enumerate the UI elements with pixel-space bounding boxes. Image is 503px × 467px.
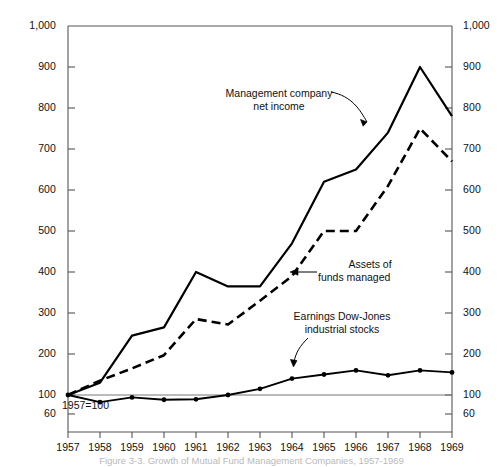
y-tick-label-right-700: 700 (463, 142, 481, 154)
y-tick-label-right-60: 60 (463, 407, 475, 419)
series-2-point-1969 (450, 370, 455, 375)
y-tick-label-right-100: 100 (463, 388, 481, 400)
y-tick-label-left-300: 300 (0, 306, 56, 318)
y-tick-label-right-900: 900 (463, 60, 481, 72)
y-tick-label-right-200: 200 (463, 347, 481, 359)
series-2-point-1965 (322, 372, 327, 377)
figure-container: 1,00090080070060050040030020010060 1,000… (0, 0, 503, 467)
y-tick-label-right-1000: 1,000 (463, 19, 490, 31)
chart-plot-area (0, 0, 503, 467)
series-2-point-1964 (290, 376, 295, 381)
series-2-point-1961 (194, 397, 199, 402)
data-series-layer (66, 67, 455, 405)
figure-caption: Figure 3-3. Growth of Mutual Fund Manage… (0, 455, 503, 467)
series-2-point-1957 (66, 393, 71, 398)
series-2-point-1962 (226, 393, 231, 398)
y-tick-label-left-60: 60 (0, 407, 56, 419)
x-tick-label-1969: 1969 (432, 441, 472, 453)
annotation-earnings-dow-jones: Earnings Dow-Jones industrial stocks (283, 310, 401, 336)
x-axis-ticks (68, 432, 452, 438)
y-tick-label-left-800: 800 (0, 101, 56, 113)
annotation-line-2: net income (204, 100, 354, 113)
y-tick-label-left-900: 900 (0, 60, 56, 72)
y-tick-label-left-100: 100 (0, 388, 56, 400)
series-2-point-1959 (130, 395, 135, 400)
y-tick-label-right-300: 300 (463, 306, 481, 318)
annotation-line-1: Management company (204, 87, 354, 100)
annotation-assets-of-funds-managed: Assets of funds managed (318, 258, 422, 284)
y-tick-label-right-600: 600 (463, 183, 481, 195)
series-2-point-1960 (162, 397, 167, 402)
y-axis-ticks-right (445, 67, 452, 414)
series-2-point-1966 (354, 368, 359, 373)
series-2-point-1963 (258, 386, 263, 391)
annotation-line-1: Assets of (318, 258, 422, 271)
annotation-line-2: industrial stocks (283, 323, 401, 336)
base-year-note: 1957=100 (62, 399, 109, 411)
annotation-line-2: funds managed (318, 271, 422, 284)
y-tick-label-left-700: 700 (0, 142, 56, 154)
y-tick-label-left-600: 600 (0, 183, 56, 195)
y-axis-ticks-left (68, 67, 75, 414)
series-2-point-1968 (418, 368, 423, 373)
y-tick-label-right-800: 800 (463, 101, 481, 113)
y-tick-label-left-1000: 1,000 (0, 19, 56, 31)
series-line-0 (68, 67, 452, 395)
y-tick-label-left-200: 200 (0, 347, 56, 359)
y-tick-label-left-500: 500 (0, 224, 56, 236)
annotation-management-company-net-income: Management company net income (204, 87, 354, 113)
y-tick-label-right-400: 400 (463, 265, 481, 277)
series-line-2 (68, 370, 452, 402)
y-tick-label-left-400: 400 (0, 265, 56, 277)
annotation-line-1: Earnings Dow-Jones (283, 310, 401, 323)
y-tick-label-right-500: 500 (463, 224, 481, 236)
series-2-point-1967 (386, 373, 391, 378)
